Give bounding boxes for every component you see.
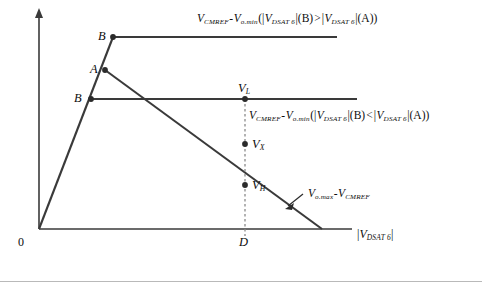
annotation-mid-v2: V (286, 109, 293, 121)
annotation-top-open: (| (258, 12, 265, 24)
annotation-top-v3-subscript: DSAT 6 (272, 18, 295, 26)
vertex-dot-top-b (110, 34, 116, 40)
point-label-vl-symbol: V (238, 81, 246, 95)
annotation-top-v2-subscript: o.min (241, 18, 258, 26)
annotation-top-v3: V (265, 12, 272, 24)
annotation-falling-v2-subscript: CMREF (345, 193, 370, 201)
vertex-label-a: A (90, 63, 98, 76)
x-axis-label-subscript: DSAT 6 (367, 233, 391, 242)
point-label-vl: VL (238, 82, 250, 95)
annotation-top-v1-subscript: CMREF (204, 18, 229, 26)
annotation-falling-v1-subscript: o.max (315, 193, 333, 201)
figure-container: 0 B A B VL VX VH D |VDSAT 6| VCMREF-Vo.m… (0, 0, 482, 282)
annotation-top-v4-subscript: DSAT 6 (332, 18, 355, 26)
vertex-label-low-b: B (74, 92, 82, 105)
annotation-mid-v1-subscript: CMREF (256, 115, 281, 123)
x-axis-label: |VDSAT 6| (357, 228, 393, 241)
point-label-vl-subscript: L (246, 87, 251, 96)
annotation-mid-close: |(A)) (407, 109, 430, 121)
annotation-mid-v3: V (317, 109, 324, 121)
point-label-vh: VH (252, 179, 265, 192)
annotation-mid-open: (| (310, 109, 317, 121)
annotation-mid-v2-subscript: o.min (293, 115, 310, 123)
annotation-top-curve: VCMREF-Vo.min(|VDSAT 6|(B)>|VDSAT 6|(A)) (197, 13, 378, 26)
vertex-dot-low-b (88, 96, 94, 102)
x-tick-label-d: D (239, 236, 248, 249)
annotation-mid-mid: |(B) (347, 109, 366, 121)
x-axis-label-symbol: V (359, 227, 366, 241)
annotation-falling-curve: Vo.max-VCMREF (308, 188, 370, 201)
marker-dot-vh (242, 182, 248, 188)
point-label-vx: VX (252, 138, 265, 151)
annotation-mid-v4-subscript: DSAT 6 (384, 115, 407, 123)
annotation-mid-curve: VCMREF-Vo.min(|VDSAT 6|(B)<|VDSAT 6|(A)) (249, 110, 430, 123)
annotation-top-mid: |(B) (295, 12, 314, 24)
marker-dot-vl (242, 96, 248, 102)
annotation-top-v1: V (197, 12, 204, 24)
annotation-mid-v4: V (377, 109, 384, 121)
x-axis-label-bar-close: | (391, 227, 393, 241)
annotation-falling-v1: V (308, 187, 315, 199)
point-label-vh-subscript: H (260, 184, 266, 193)
annotation-mid-v1: V (249, 109, 256, 121)
marker-dot-vx (242, 141, 248, 147)
ramp-line-to-top-b (39, 37, 113, 229)
vertex-label-top-b: B (98, 30, 106, 43)
annotation-top-close: |(A)) (355, 12, 378, 24)
point-label-vx-subscript: X (260, 143, 265, 152)
point-label-vx-symbol: V (252, 137, 260, 151)
origin-label: 0 (18, 236, 24, 248)
vertex-dot-a (102, 67, 108, 73)
annotation-mid-v3-subscript: DSAT 6 (324, 115, 347, 123)
point-label-vh-symbol: V (252, 178, 260, 192)
annotation-top-v2: V (234, 12, 241, 24)
falling-label-leader-line (288, 194, 303, 206)
y-axis-arrowhead (35, 8, 43, 18)
annotation-top-v4: V (325, 12, 332, 24)
